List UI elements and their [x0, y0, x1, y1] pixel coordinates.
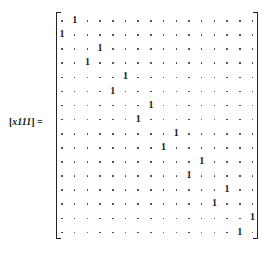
matrix-entry-zero — [171, 14, 181, 26]
matrix-entry-zero — [108, 183, 118, 195]
matrix-entry-zero — [133, 42, 143, 54]
matrix-entry-zero — [248, 56, 258, 68]
matrix-entry-zero — [159, 70, 169, 82]
matrix-entry-zero — [57, 226, 67, 238]
matrix-entry-zero — [209, 155, 219, 167]
matrix-entry-zero — [108, 56, 118, 68]
matrix-entry-zero — [82, 169, 92, 181]
matrix-entry-zero — [197, 211, 207, 223]
matrix-entry-zero — [95, 197, 105, 209]
matrix-entry-zero — [95, 155, 105, 167]
matrix-entry-zero — [235, 211, 245, 223]
matrix-entry-zero — [95, 85, 105, 97]
matrix-entry-zero — [82, 155, 92, 167]
matrix-entry-zero — [248, 197, 258, 209]
matrix-entry-zero — [108, 141, 118, 153]
matrix-entry-zero — [108, 28, 118, 40]
matrix-entry-zero — [95, 127, 105, 139]
matrix-entry-zero — [70, 99, 80, 111]
matrix-entry-zero — [95, 28, 105, 40]
matrix-entry-zero — [222, 14, 232, 26]
matrix-entry-zero — [146, 183, 156, 195]
matrix-entry-zero — [108, 169, 118, 181]
matrix-entry-zero — [57, 42, 67, 54]
matrix-entry-zero — [70, 28, 80, 40]
matrix-entry-zero — [133, 14, 143, 26]
matrix-entry-zero — [184, 56, 194, 68]
matrix-entry-zero — [57, 14, 67, 26]
matrix-entry-zero — [184, 127, 194, 139]
matrix-entry-zero — [222, 169, 232, 181]
label-equals: = — [37, 116, 43, 127]
matrix-entry-zero — [197, 85, 207, 97]
matrix-entry-zero — [171, 211, 181, 223]
matrix-entry-zero — [197, 28, 207, 40]
matrix-entry-zero — [70, 85, 80, 97]
matrix-entry-zero — [70, 197, 80, 209]
matrix-entry-one: 1 — [95, 42, 105, 54]
matrix-entry-zero — [95, 141, 105, 153]
matrix-entry-zero — [222, 197, 232, 209]
matrix-entry-zero — [171, 183, 181, 195]
matrix-entry-zero — [184, 183, 194, 195]
matrix-entry-zero — [235, 42, 245, 54]
matrix-entry-zero — [108, 211, 118, 223]
matrix-entry-zero — [70, 56, 80, 68]
matrix-entry-zero — [235, 197, 245, 209]
matrix-entry-zero — [197, 141, 207, 153]
matrix-entry-zero — [82, 141, 92, 153]
matrix-label: [x111] = — [9, 116, 43, 127]
matrix-entry-zero — [82, 113, 92, 125]
matrix-entry-zero — [121, 14, 131, 26]
matrix-entry-zero — [209, 99, 219, 111]
matrix-entry-zero — [82, 197, 92, 209]
matrix-entry-zero — [95, 183, 105, 195]
matrix-entry-one: 1 — [146, 99, 156, 111]
matrix-entry-zero — [82, 183, 92, 195]
matrix-entry-zero — [209, 28, 219, 40]
matrix-entry-zero — [108, 226, 118, 238]
matrix-entry-zero — [197, 113, 207, 125]
matrix-entry-zero — [121, 99, 131, 111]
matrix-entry-zero — [235, 56, 245, 68]
matrix-entry-zero — [57, 183, 67, 195]
matrix-entry-zero — [57, 113, 67, 125]
matrix-entry-zero — [133, 28, 143, 40]
matrix-entry-zero — [222, 28, 232, 40]
matrix-entry-zero — [133, 169, 143, 181]
matrix-entry-zero — [70, 42, 80, 54]
matrix-entry-zero — [171, 113, 181, 125]
matrix-entry-zero — [159, 14, 169, 26]
matrix-entry-zero — [95, 169, 105, 181]
matrix-entry-zero — [57, 169, 67, 181]
matrix-entry-zero — [184, 14, 194, 26]
matrix-entry-zero — [95, 211, 105, 223]
matrix-entry-zero — [133, 70, 143, 82]
matrix-entry-zero — [235, 155, 245, 167]
matrix-entry-zero — [209, 70, 219, 82]
matrix-entry-zero — [70, 226, 80, 238]
matrix-entry-one: 1 — [184, 169, 194, 181]
matrix-entry-zero — [235, 70, 245, 82]
matrix-entry-zero — [146, 113, 156, 125]
matrix-entry-zero — [248, 127, 258, 139]
matrix-entry-zero — [235, 28, 245, 40]
matrix-entry-zero — [235, 183, 245, 195]
matrix-entry-zero — [108, 14, 118, 26]
matrix-entry-zero — [248, 42, 258, 54]
matrix-entry-zero — [184, 99, 194, 111]
matrix-entry-zero — [146, 42, 156, 54]
matrix-entry-zero — [197, 99, 207, 111]
matrix-entry-zero — [57, 197, 67, 209]
matrix-entry-zero — [146, 127, 156, 139]
matrix-entry-zero — [95, 226, 105, 238]
matrix-entry-zero — [197, 56, 207, 68]
matrix-entry-zero — [133, 183, 143, 195]
matrix-entry-zero — [82, 14, 92, 26]
matrix-entry-zero — [197, 70, 207, 82]
matrix-entry-zero — [82, 99, 92, 111]
matrix-entry-one: 1 — [171, 127, 181, 139]
matrix-entry-zero — [222, 155, 232, 167]
matrix-entry-zero — [209, 56, 219, 68]
matrix-entry-zero — [133, 226, 143, 238]
